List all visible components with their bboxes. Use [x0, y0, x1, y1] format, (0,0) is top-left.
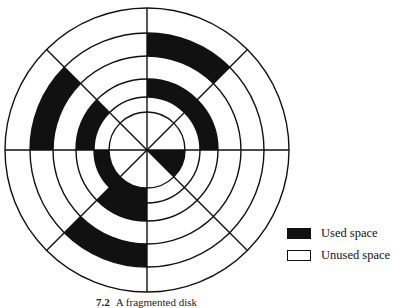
legend-item-unused: Unused space: [287, 244, 390, 266]
used-block: [147, 150, 185, 177]
legend: Used space Unused space: [287, 222, 390, 266]
legend-label-unused: Unused space: [321, 248, 390, 263]
legend-item-used: Used space: [287, 222, 390, 244]
fragmented-disk-diagram: [0, 0, 300, 300]
unused-space-swatch: [287, 250, 311, 261]
legend-label-used: Used space: [321, 226, 378, 241]
sector-lines: [5, 8, 289, 292]
figure-caption-text: A fragmented disk: [116, 296, 197, 308]
figure-caption: 7.2A fragmented disk: [0, 296, 293, 308]
figure-number: 7.2: [96, 296, 110, 308]
used-space-swatch: [287, 228, 311, 239]
